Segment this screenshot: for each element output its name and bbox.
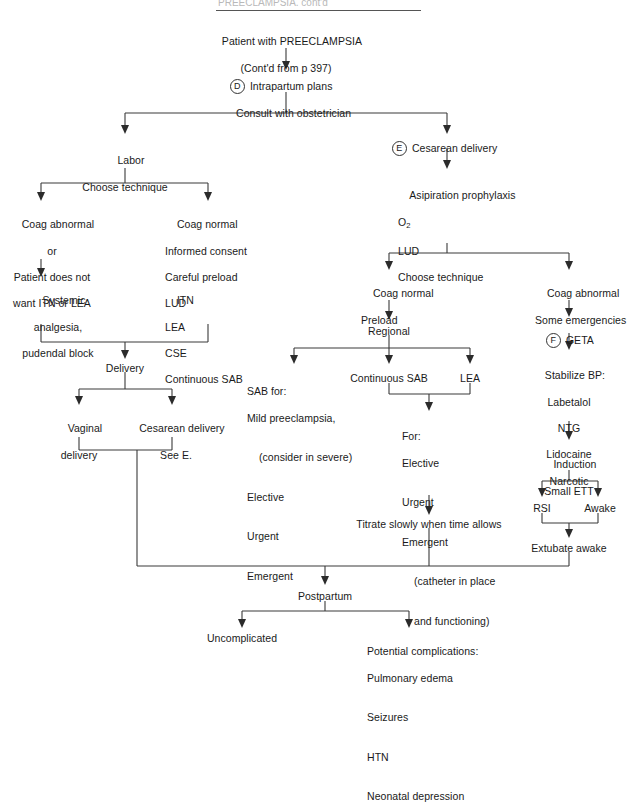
stab-line2: Labetalol: [547, 396, 590, 408]
node-intrapartum-line2: Consult with obstetrician: [218, 107, 351, 119]
node-continuous-sab: Continuous SAB: [350, 372, 428, 385]
for-line5: (catheter in place: [390, 575, 495, 588]
node-intrapartum-line1: Intrapartum plans: [250, 80, 333, 92]
sab-line4: Elective: [235, 491, 352, 504]
header-rule: [216, 10, 421, 11]
node-itn-options: ITN LEA CSE Continuous SAB: [165, 281, 243, 400]
for-line3: Urgent: [390, 496, 495, 509]
node-labor-line1: Labor: [117, 154, 144, 166]
for-line2: Elective: [390, 457, 495, 470]
stab-line3: NTG: [558, 422, 580, 434]
page-header-title: PREECLAMPSIA, cont'd: [218, 0, 428, 6]
coag-norm-cs-line1: Coag normal: [373, 287, 434, 299]
sab-line5: Urgent: [235, 530, 352, 543]
systemic-line3: pudendal block: [22, 347, 93, 359]
itn-line3: CSE: [165, 347, 187, 359]
ces-see-line2: See E.: [160, 449, 192, 461]
node-potential-complications: Potential complications: Pulmonary edema…: [355, 632, 478, 806]
sab-line3: (consider in severe): [235, 451, 352, 464]
node-delivery: Delivery: [106, 362, 144, 375]
step-tag-d-icon: D: [230, 79, 245, 94]
stab-line1: Stabilize BP:: [545, 369, 605, 381]
node-cesarean-see-e: Cesarean delivery See E.: [127, 409, 224, 475]
sab-line2: Mild preeclampsia,: [235, 412, 352, 425]
node-start-line1: Patient with PREECLAMPSIA: [222, 35, 362, 47]
step-tag-e-icon: E: [392, 141, 407, 156]
node-cesarean-delivery: ECesarean delivery: [380, 128, 497, 169]
for-line6: and functioning): [390, 615, 495, 628]
asp-line3: LUD: [398, 245, 419, 257]
itn-line2: LEA: [165, 321, 185, 333]
comp-line2: Pulmonary edema: [355, 672, 478, 685]
node-for-list: For: Elective Urgent Emergent (catheter …: [390, 417, 495, 655]
sab-line6: Emergent: [235, 570, 352, 583]
node-sab-for: SAB for: Mild preeclampsia, (consider in…: [235, 372, 352, 610]
node-regional: Regional: [368, 325, 410, 338]
coag-norm-cs-line2: Preload: [361, 314, 398, 326]
coag-norm-labor-line1: Coag normal: [177, 218, 238, 230]
induction-line1: Induction: [553, 458, 596, 470]
node-extubate-awake: Extubate awake: [531, 542, 606, 555]
node-intrapartum-plans: DIntrapartum plans Consult with obstetri…: [218, 66, 351, 134]
coag-abn-labor-line2: or: [47, 245, 56, 257]
coag-norm-labor-line2: Informed consent: [165, 245, 247, 257]
asp-line2: O2: [398, 216, 411, 228]
node-postpartum: Postpartum: [298, 590, 352, 603]
node-cesarean-label: Cesarean delivery: [412, 142, 497, 154]
asp-line1: Asipiration prophylaxis: [409, 189, 515, 201]
step-tag-f-icon: F: [546, 333, 561, 348]
vaginal-line2: delivery: [61, 449, 98, 461]
for-line4: Emergent: [390, 536, 495, 549]
node-lea: LEA: [460, 372, 480, 385]
node-geta-label: GETA: [566, 334, 594, 346]
itn-line1: ITN: [177, 294, 194, 306]
node-uncomplicated: Uncomplicated: [207, 632, 277, 645]
coag-abn-labor-line1: Coag abnormal: [22, 218, 94, 230]
ces-see-line1: Cesarean delivery: [139, 422, 224, 434]
comp-line5: Neonatal depression: [355, 790, 478, 803]
sab-line1: SAB for:: [247, 385, 287, 397]
comp-line1: Potential complications:: [367, 645, 479, 657]
systemic-line2: analgesia,: [34, 321, 82, 333]
node-labor-line2: Choose technique: [82, 181, 167, 193]
node-awake: Awake: [584, 502, 616, 515]
node-titrate-slowly: Titrate slowly when time allows: [356, 518, 501, 531]
for-line1: For:: [402, 430, 421, 442]
systemic-line1: Systemic: [42, 294, 85, 306]
node-rsi: RSI: [533, 502, 551, 515]
node-labor: Labor Choose technique: [82, 141, 167, 207]
node-systemic-analgesia: Systemic analgesia, pudendal block: [22, 281, 93, 373]
itn-line4: Continuous SAB: [165, 373, 243, 385]
coag-abn-cs-line1: Coag abnormal: [547, 287, 619, 299]
node-vaginal-delivery: Vaginal delivery: [56, 409, 102, 475]
vaginal-line1: Vaginal: [68, 422, 103, 434]
comp-line4: HTN: [355, 751, 478, 764]
comp-line3: Seizures: [355, 711, 478, 724]
induction-line2: Small ETT: [544, 485, 593, 497]
